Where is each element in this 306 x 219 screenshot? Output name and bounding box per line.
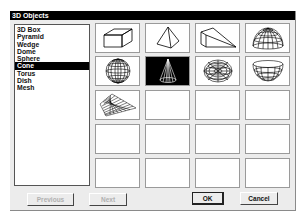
- list-item-cone[interactable]: Cone: [15, 62, 89, 69]
- tile-empty[interactable]: [195, 90, 240, 120]
- cancel-button[interactable]: Cancel: [240, 192, 278, 205]
- list-item-pyramid[interactable]: Pyramid: [15, 33, 89, 40]
- tile-empty[interactable]: [245, 90, 290, 120]
- tile-mesh[interactable]: [95, 90, 140, 120]
- next-button[interactable]: Next: [89, 193, 127, 206]
- tile-cone[interactable]: [145, 56, 190, 86]
- tile-empty[interactable]: [145, 158, 190, 188]
- tile-pyramid[interactable]: [145, 23, 190, 53]
- tile-empty[interactable]: [145, 90, 190, 120]
- torus-icon: [202, 58, 234, 84]
- pyramid-icon: [153, 26, 183, 50]
- dish-icon: [251, 59, 285, 83]
- list-item-dish[interactable]: Dish: [15, 77, 89, 84]
- list-item-mesh[interactable]: Mesh: [15, 84, 89, 91]
- list-item-torus[interactable]: Torus: [15, 70, 89, 77]
- tile-torus[interactable]: [195, 56, 240, 86]
- wedge-icon: [198, 26, 238, 50]
- cone-icon: [156, 58, 180, 84]
- object-type-list[interactable]: 3D Box Pyramid Wedge Dome Sphere Cone To…: [14, 24, 90, 186]
- tile-empty[interactable]: [145, 124, 190, 154]
- list-item-wedge[interactable]: Wedge: [15, 41, 89, 48]
- tile-empty[interactable]: [245, 158, 290, 188]
- tile-empty[interactable]: [95, 158, 140, 188]
- dialog-title: 3D Objects: [10, 11, 295, 20]
- tile-empty[interactable]: [195, 124, 240, 154]
- tile-empty[interactable]: [245, 124, 290, 154]
- tile-empty[interactable]: [195, 158, 240, 188]
- mesh-icon: [98, 92, 138, 118]
- dome-icon: [250, 26, 286, 50]
- tile-empty[interactable]: [95, 124, 140, 154]
- list-item-3d-box[interactable]: 3D Box: [15, 26, 89, 33]
- tile-wedge[interactable]: [195, 23, 240, 53]
- 3d-objects-dialog: 3D Objects 3D Box Pyramid Wedge Dome Sph…: [10, 11, 296, 211]
- tile-sphere[interactable]: [95, 56, 140, 86]
- tile-3d-box[interactable]: [95, 23, 140, 53]
- box-icon: [100, 27, 136, 49]
- sphere-icon: [104, 57, 132, 85]
- list-item-sphere[interactable]: Sphere: [15, 55, 89, 62]
- list-item-dome[interactable]: Dome: [15, 48, 89, 55]
- tile-dome[interactable]: [245, 23, 290, 53]
- previous-button[interactable]: Previous: [27, 193, 74, 206]
- tile-dish[interactable]: [245, 56, 290, 86]
- ok-button[interactable]: OK: [192, 192, 224, 205]
